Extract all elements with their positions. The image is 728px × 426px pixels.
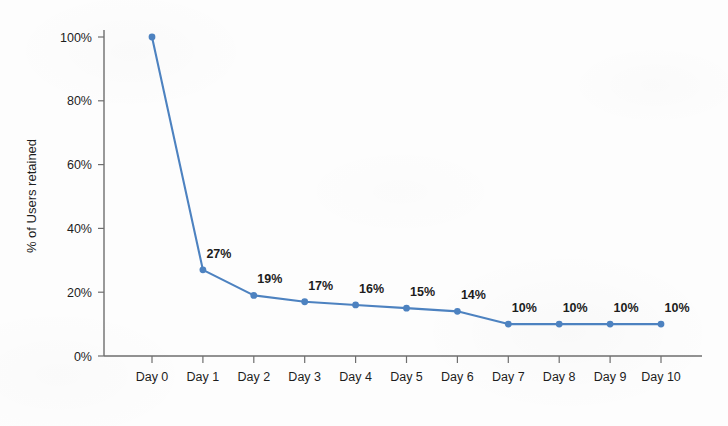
data-point [556,321,563,328]
y-tick-label: 20% [67,286,92,300]
data-point-label: 10% [614,301,639,315]
x-tick-label: Day 10 [641,370,681,384]
x-tick-label: Day 0 [136,370,169,384]
data-point-label: 10% [664,301,689,315]
data-point [658,321,665,328]
data-point-label: 10% [512,301,537,315]
data-point [301,298,308,305]
data-point [200,266,207,273]
data-point [149,34,156,41]
data-point-label: 14% [461,288,486,302]
data-point [505,321,512,328]
x-tick-label: Day 1 [187,370,220,384]
data-point [352,302,359,309]
x-tick-label: Day 6 [441,370,474,384]
x-tick-label: Day 3 [288,370,321,384]
data-point-label: 15% [410,285,435,299]
data-point-labels: 27%19%17%16%15%14%10%10%10%10% [206,247,689,315]
x-tick-label: Day 9 [594,370,627,384]
data-point-markers [149,34,665,328]
x-tick-label: Day 2 [237,370,270,384]
data-point-label: 27% [206,247,231,261]
data-point [403,305,410,312]
y-tick-label: 100% [60,31,92,45]
data-point-label: 10% [563,301,588,315]
data-point-label: 17% [308,279,333,293]
chart-page: 0%20%40%60%80%100% Day 0Day 1Day 2Day 3D… [0,0,728,426]
x-tick-label: Day 7 [492,370,525,384]
x-tick-label: Day 5 [390,370,423,384]
data-point [250,292,257,299]
y-tick-label: 60% [67,158,92,172]
retention-line-chart: 0%20%40%60%80%100% Day 0Day 1Day 2Day 3D… [0,0,728,426]
y-tick-label: 40% [67,222,92,236]
data-point [607,321,614,328]
data-point [454,308,461,315]
y-tick-label: 80% [67,94,92,108]
x-tick-label: Day 8 [543,370,576,384]
y-tick-group: 0%20%40%60%80%100% [60,31,104,364]
data-point-label: 19% [257,272,282,286]
retention-series-line [152,37,661,324]
y-axis-title: % of Users retained [24,139,39,253]
x-tick-group: Day 0Day 1Day 2Day 3Day 4Day 5Day 6Day 7… [136,356,681,384]
x-tick-label: Day 4 [339,370,372,384]
y-tick-label: 0% [74,350,92,364]
data-point-label: 16% [359,282,384,296]
